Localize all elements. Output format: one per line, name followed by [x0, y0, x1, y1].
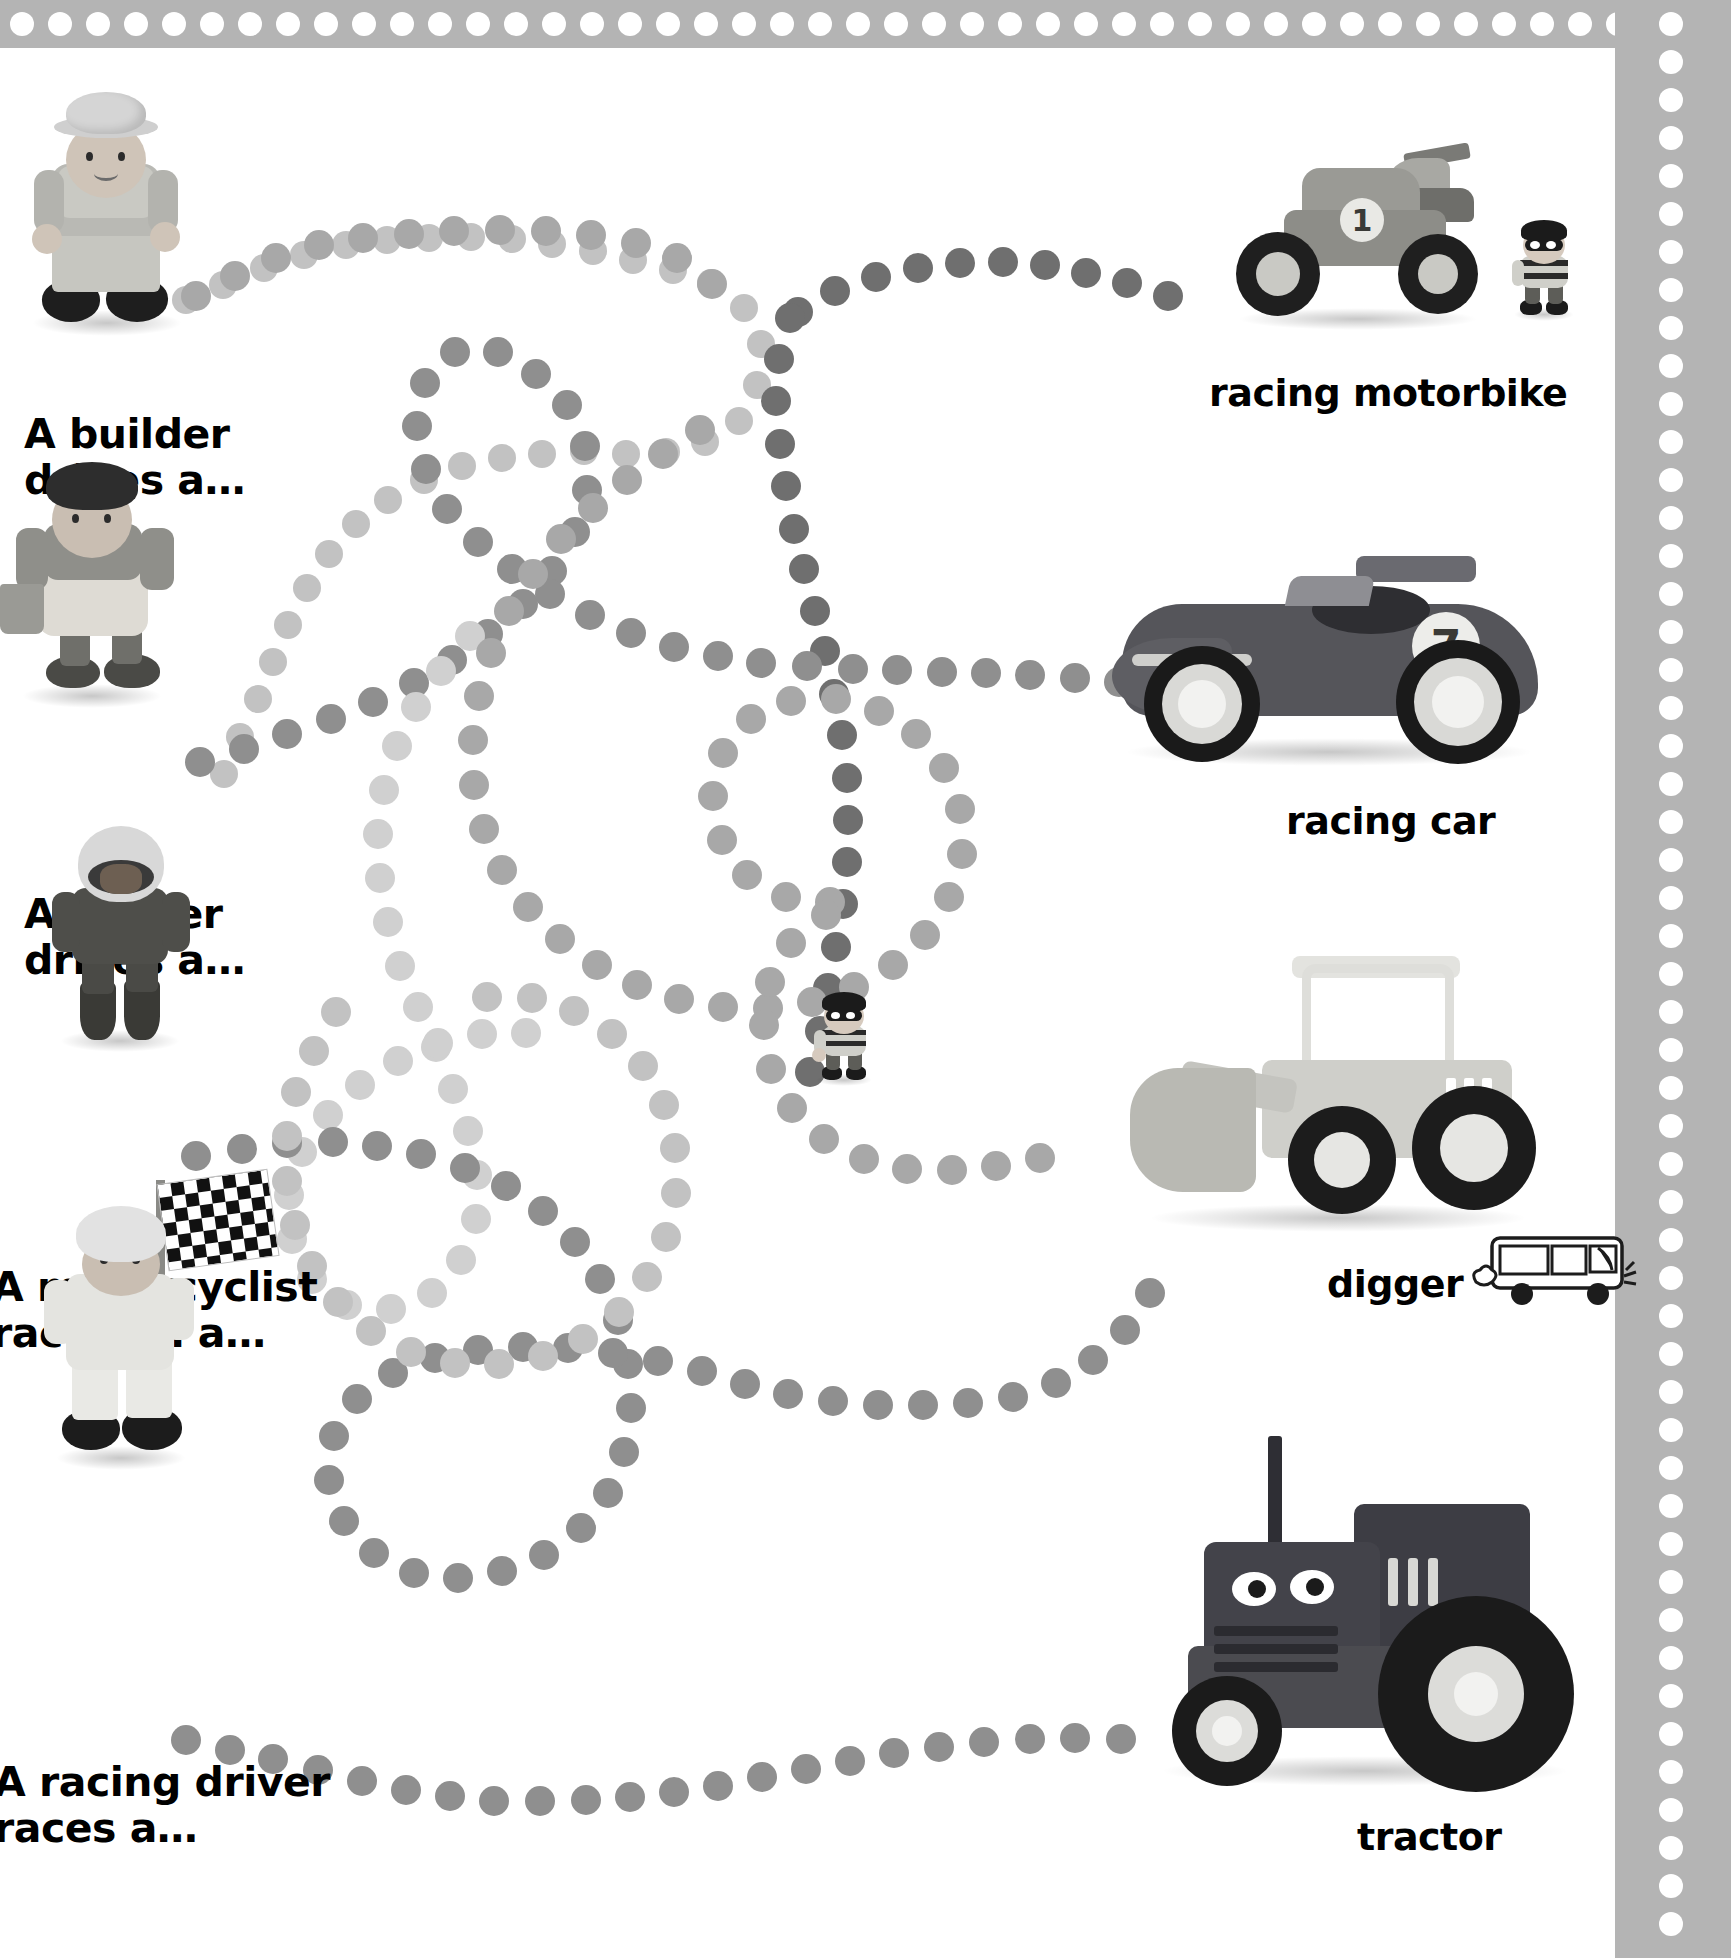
- trail-dot: [659, 1777, 689, 1807]
- trail-dot: [272, 719, 302, 749]
- trail-dot: [604, 1297, 634, 1327]
- trail-dot: [347, 1766, 377, 1796]
- trail-dot: [771, 471, 801, 501]
- trail-dot: [316, 704, 346, 734]
- trail-dot: [394, 219, 424, 249]
- trail-dot: [616, 1393, 646, 1423]
- trail-dot: [272, 1121, 302, 1151]
- trail-dot: [483, 337, 513, 367]
- trail-dot: [597, 1019, 627, 1049]
- trail-dot: [649, 1090, 679, 1120]
- trail-dot: [318, 1127, 348, 1157]
- trail-dot: [274, 611, 302, 639]
- trail-dot: [908, 1390, 938, 1420]
- trail-dot: [697, 269, 727, 299]
- trail-dot: [488, 444, 516, 472]
- trail-dot: [467, 1019, 497, 1049]
- trail-dot: [575, 600, 605, 630]
- trail-dot: [244, 685, 272, 713]
- trail-dot: [861, 262, 891, 292]
- trail-dot: [708, 738, 738, 768]
- trail-dot: [458, 725, 488, 755]
- trail-dot: [832, 847, 862, 877]
- trail-dot: [929, 753, 959, 783]
- trail-dot: [385, 951, 415, 981]
- trail-dot: [365, 863, 395, 893]
- trail-dot: [833, 805, 863, 835]
- trail-dot: [459, 770, 489, 800]
- trail-dot: [552, 390, 582, 420]
- trail-dot: [345, 1070, 375, 1100]
- trail-dot: [771, 882, 801, 912]
- trail-dot: [628, 1051, 658, 1081]
- trail-dot: [391, 1775, 421, 1805]
- trail-dot: [835, 1746, 865, 1776]
- trail-dot: [945, 794, 975, 824]
- label-tractor: tractor: [1357, 1816, 1597, 1859]
- wooden-toy-builder-figure: [14, 92, 204, 332]
- trail-dot: [998, 1382, 1028, 1412]
- trail-dot: [593, 1478, 623, 1508]
- trail-dot: [651, 1222, 681, 1252]
- trail-dot: [528, 440, 556, 468]
- trail-dot: [472, 982, 502, 1012]
- trail-dot: [342, 510, 370, 538]
- trail-dot: [622, 970, 652, 1000]
- trail-dot: [304, 230, 334, 260]
- trail-dot: [578, 493, 608, 523]
- trail-dot: [685, 415, 715, 445]
- trail-dot: [440, 1348, 470, 1378]
- trail-dot: [487, 855, 517, 885]
- trail-dot: [659, 632, 689, 662]
- trail-dot: [892, 1154, 922, 1184]
- trail-dot: [934, 882, 964, 912]
- trail-dot: [259, 648, 287, 676]
- trail-dot: [1041, 1368, 1071, 1398]
- motorbike-number-decal: 1: [1340, 198, 1384, 242]
- trail-dot: [315, 540, 343, 568]
- trail-dot: [435, 1781, 465, 1811]
- trail-dot: [821, 684, 851, 714]
- trail-dot: [811, 900, 841, 930]
- trail-dot: [485, 215, 515, 245]
- trail-dot: [511, 1018, 541, 1048]
- trail-dot: [1025, 1143, 1055, 1173]
- trail-dot: [293, 574, 321, 602]
- trail-dot: [988, 247, 1018, 277]
- trail-dot: [779, 514, 809, 544]
- trail-dot: [229, 734, 259, 764]
- trail-dot: [879, 1738, 909, 1768]
- trail-dot: [725, 407, 753, 435]
- trail-dot: [417, 1278, 447, 1308]
- label-racing-car: racing car: [1286, 800, 1626, 843]
- trail-dot: [518, 559, 548, 589]
- wooden-toy-racing-motorbike: 1: [1228, 132, 1486, 332]
- trail-dot: [383, 1046, 413, 1076]
- trail-dot: [411, 454, 441, 484]
- bus-doodle-svg: [1466, 1224, 1646, 1320]
- trail-dot: [820, 276, 850, 306]
- trail-dot: [476, 638, 506, 668]
- trail-dot: [568, 1324, 598, 1354]
- wooden-toy-burglar-figure-centre: [812, 990, 876, 1086]
- trail-dot: [937, 1155, 967, 1185]
- trail-dot: [882, 655, 912, 685]
- trail-dot: [461, 1204, 491, 1234]
- trail-dot: [969, 1727, 999, 1757]
- trail-dot: [730, 1369, 760, 1399]
- trail-dot: [732, 860, 762, 890]
- trail-dot: [901, 719, 931, 749]
- trail-dot: [410, 368, 440, 398]
- trail-dot: [1060, 663, 1090, 693]
- trail-dot: [863, 1390, 893, 1420]
- trail-dot: [528, 1341, 558, 1371]
- trail-dot: [756, 1054, 786, 1084]
- wooden-toy-racing-car: 7: [1112, 542, 1552, 772]
- trail-dot: [313, 1100, 343, 1130]
- trail-dot: [773, 1379, 803, 1409]
- trail-dot: [736, 704, 766, 734]
- trail-dot: [359, 1538, 389, 1568]
- trail-dot: [528, 1196, 558, 1226]
- trail-dot: [517, 983, 547, 1013]
- trail-dot: [755, 967, 785, 997]
